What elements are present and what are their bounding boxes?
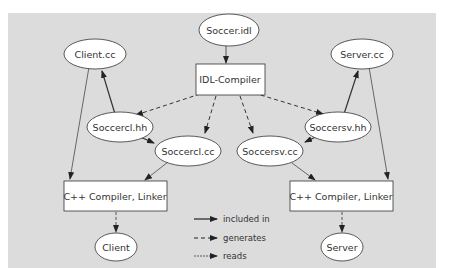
edge-compiler-to-soccersv-hh (254, 93, 323, 114)
edge-soccersv-hh-to-server-cc (344, 71, 358, 114)
legend-item-reads: reads (194, 251, 247, 261)
node-server-cc: Server.cc (331, 39, 393, 69)
edge-compiler-to-soccercl-hh (136, 94, 200, 115)
node-soccersv-hh: Soccersv.hh (305, 112, 371, 142)
node-idl-compiler: IDL-Compiler (196, 64, 265, 95)
edge-compiler-to-soccercl-cc (205, 96, 216, 133)
node-label: Soccercl.hh (93, 122, 148, 133)
node-server: Server (321, 233, 363, 261)
edge-client-cc-to-cpp-left (70, 67, 89, 179)
node-cpp-compiler-left: C++ Compiler, Linker (63, 181, 167, 211)
node-label: Soccercl.cc (161, 146, 214, 157)
legend-label: reads (223, 251, 247, 261)
node-label: IDL-Compiler (199, 74, 261, 85)
node-soccer-idl: Soccer.idl (199, 14, 259, 46)
edge-server-cc-to-cpp-right (369, 67, 388, 179)
node-label: C++ Compiler, Linker (289, 191, 392, 202)
node-client-cc: Client.cc (64, 39, 126, 69)
node-label: Soccer.idl (206, 25, 252, 36)
legend-item-included-in: included in (194, 214, 270, 224)
node-label: Soccersv.hh (310, 122, 367, 133)
legend-label: generates (223, 233, 267, 243)
node-label: C++ Compiler, Linker (63, 191, 166, 202)
legend-label: included in (223, 214, 270, 224)
node-label: Soccersv.cc (242, 146, 297, 157)
edge-soccercl-cc-to-cpp-left (145, 162, 168, 180)
legend: included in generates reads (194, 214, 270, 261)
node-label: Server.cc (340, 49, 384, 60)
node-soccercl-hh: Soccercl.hh (87, 112, 153, 142)
node-soccercl-cc: Soccercl.cc (155, 136, 221, 166)
node-label: Client.cc (75, 49, 116, 60)
edge-soccersv-cc-to-cpp-right (292, 163, 315, 180)
build-diagram: Soccer.idl IDL-Compiler Client.cc Server… (0, 0, 451, 268)
legend-item-generates: generates (194, 233, 267, 243)
node-soccersv-cc: Soccersv.cc (237, 136, 303, 166)
edge-soccercl-hh-to-client-cc (102, 71, 115, 114)
node-cpp-compiler-right: C++ Compiler, Linker (289, 181, 393, 211)
node-client: Client (95, 233, 137, 261)
node-label: Server (326, 242, 357, 253)
edge-compiler-to-soccersv-cc (240, 96, 253, 133)
node-label: Client (102, 242, 130, 253)
